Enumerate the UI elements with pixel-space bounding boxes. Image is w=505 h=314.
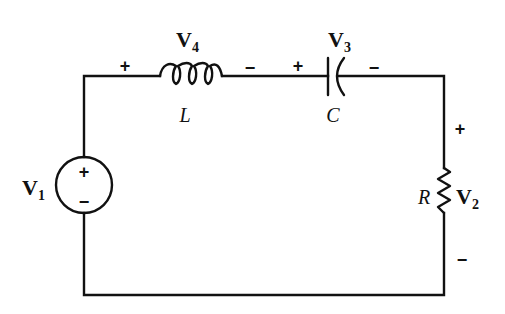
resistor-minus-sign: − [457,250,468,270]
resistor-name: R [417,186,430,208]
source-plus-sign: + [79,162,90,182]
capacitor-voltage-label: V3 [328,27,351,55]
inductor-voltage-label: V4 [176,27,199,55]
circuit-diagram: + − V1 L V4 + − C V3 + − R V2 + − [0,0,505,314]
wire-left-top [84,76,160,157]
inductor-plus-sign: + [120,56,131,76]
inductor-coil [160,63,222,84]
inductor-name: L [178,104,190,126]
inductor-minus-sign: − [245,58,256,78]
source-label: V1 [22,175,45,203]
resistor: R V2 + − [417,119,479,270]
source-minus-sign: − [79,192,90,212]
resistor-voltage-label: V2 [456,184,479,212]
voltage-source: + − V1 [22,157,112,213]
capacitor-name: C [326,104,340,126]
wire-resistor-bottom [84,213,444,295]
wires [84,76,444,295]
resistor-plus-sign: + [455,119,466,139]
resistor-zigzag [438,168,450,213]
wire-capacitor-right [338,76,444,168]
capacitor-plus-sign: + [293,56,304,76]
capacitor-minus-sign: − [369,58,380,78]
